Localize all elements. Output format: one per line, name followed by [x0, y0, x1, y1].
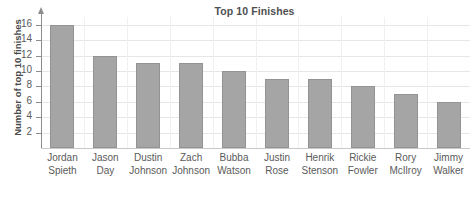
- y-axis-tick-mark: [36, 56, 41, 57]
- y-axis-tick-mark: [36, 71, 41, 72]
- y-axis-tick-label: 2: [2, 127, 32, 137]
- bar: [351, 86, 375, 148]
- y-axis-line: [41, 13, 42, 149]
- bar: [222, 71, 246, 148]
- bar: [437, 102, 461, 148]
- x-axis-tick-label: JimmyWalker: [419, 152, 475, 177]
- y-axis-tick-label: 8: [2, 80, 32, 90]
- y-axis-tick-mark: [36, 86, 41, 87]
- vertical-gridline: [298, 17, 299, 148]
- vertical-gridline: [170, 17, 171, 148]
- bar: [136, 63, 160, 148]
- y-axis-tick-label: 16: [2, 19, 32, 29]
- vertical-gridline: [256, 17, 257, 148]
- vertical-gridline: [127, 17, 128, 148]
- y-axis-tick-label: 10: [2, 65, 32, 75]
- y-axis-tick-label: 12: [2, 50, 32, 60]
- vertical-gridline: [384, 17, 385, 148]
- y-axis-tick-label: 6: [2, 96, 32, 106]
- x-axis-line: [41, 148, 470, 149]
- vertical-gridline: [84, 17, 85, 148]
- y-axis-tick-mark: [36, 133, 41, 134]
- y-axis-arrow-icon: [38, 7, 44, 14]
- y-axis-tick-mark: [36, 40, 41, 41]
- plot-area: [41, 17, 470, 148]
- bar-chart: Top 10 Finishes Number of top 10 finishe…: [0, 0, 475, 201]
- chart-title: Top 10 Finishes: [0, 5, 475, 17]
- y-axis-tick-label: 4: [2, 111, 32, 121]
- bar: [93, 56, 117, 148]
- y-axis-tick-mark: [36, 102, 41, 103]
- bar: [50, 25, 74, 148]
- x-label-line-1: Jimmy: [419, 152, 475, 165]
- vertical-gridline: [341, 17, 342, 148]
- bar: [308, 79, 332, 148]
- x-label-line-2: Walker: [419, 165, 475, 178]
- bar: [394, 94, 418, 148]
- vertical-gridline: [427, 17, 428, 148]
- y-axis-tick-mark: [36, 25, 41, 26]
- y-axis-tick-label: 14: [2, 34, 32, 44]
- y-axis-tick-mark: [36, 117, 41, 118]
- bar: [179, 63, 203, 148]
- vertical-gridline: [213, 17, 214, 148]
- bar: [265, 79, 289, 148]
